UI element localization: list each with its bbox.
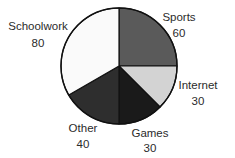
label-sports: Sports 60 — [158, 10, 200, 41]
label-internet: Internet 30 — [174, 78, 222, 109]
label-games: Games 30 — [128, 126, 172, 156]
label-other-name: Other — [62, 121, 104, 136]
label-schoolwork-name: Schoolwork — [6, 19, 70, 34]
label-sports-name: Sports — [158, 10, 200, 25]
label-internet-value: 30 — [174, 94, 222, 109]
label-games-value: 30 — [128, 141, 172, 156]
label-sports-value: 60 — [158, 26, 200, 41]
label-other-value: 40 — [62, 137, 104, 152]
label-other: Other 40 — [62, 121, 104, 152]
label-games-name: Games — [128, 126, 172, 141]
label-schoolwork: Schoolwork 80 — [6, 19, 70, 51]
label-schoolwork-value: 80 — [6, 36, 70, 51]
label-internet-name: Internet — [174, 78, 222, 93]
